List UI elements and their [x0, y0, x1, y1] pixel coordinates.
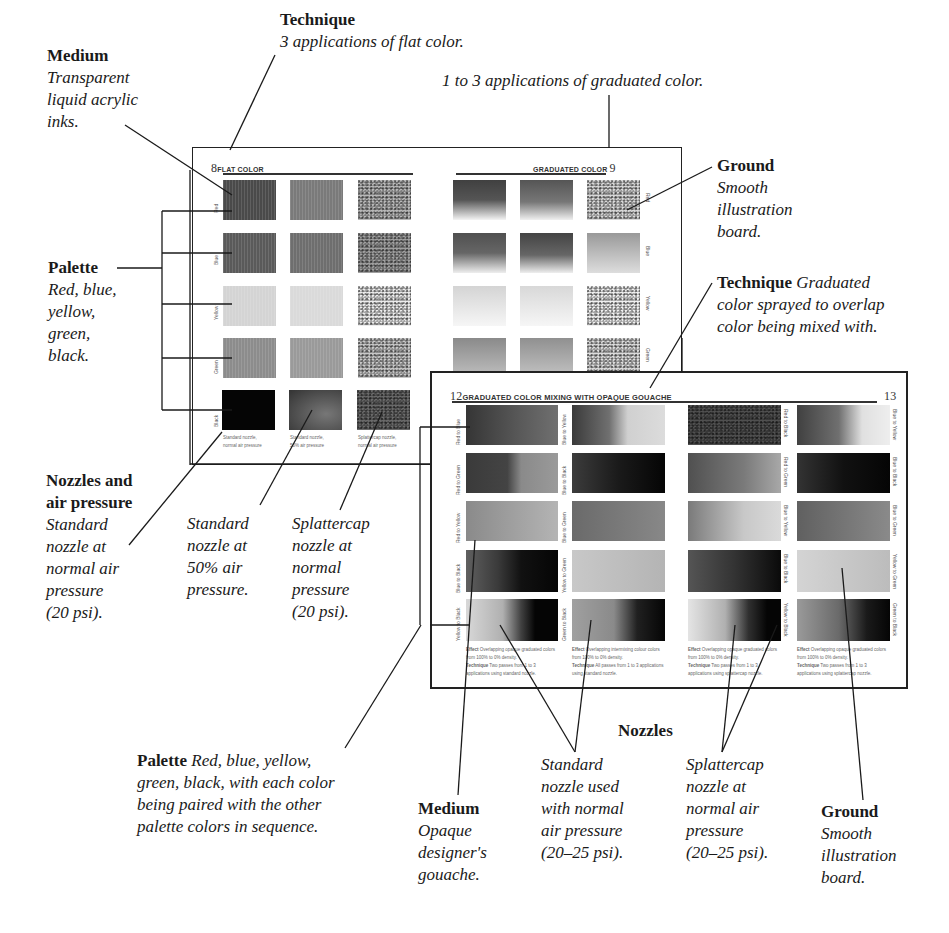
mix-r-yellow-black	[688, 599, 781, 641]
mix-label-l2-1: Blue to Black	[561, 466, 567, 495]
annotation-graduated-note: 1 to 3 applications of graduated color.	[442, 70, 703, 92]
header-rule-bottom	[452, 401, 877, 403]
mix-r-blue-black-2	[797, 453, 890, 493]
mix-r-red-black	[688, 405, 781, 445]
swatch-black-splatter	[357, 390, 410, 430]
swatch-green-splatter	[358, 338, 411, 378]
swatch-blue-splatter	[358, 233, 411, 273]
mix-label-r1-2: Blue to Yellow	[783, 505, 789, 536]
grad-red-2	[520, 180, 573, 220]
mix-blue-black	[466, 550, 558, 592]
mix-label-l2-0: Blue to Yellow	[561, 414, 567, 445]
mix-caption-4: Effect Overlapping opaque graduated colo…	[797, 646, 890, 678]
swatch-yellow-50	[290, 286, 343, 326]
swatch-yellow-standard	[223, 286, 276, 326]
mix-r-blue-green	[797, 501, 890, 541]
mix-label-r2-1: Blue to Black	[892, 457, 898, 486]
annotation-splattercap-bottom: Splattercap nozzle at normal air pressur…	[686, 754, 768, 864]
annotation-splattercap-20: Splattercap nozzle at normal pressure (2…	[292, 513, 370, 623]
mix-r-yellow-green	[797, 550, 890, 592]
mix-r-red-green	[688, 453, 781, 493]
row-label-black: Black	[213, 415, 219, 427]
mix-blue-yellow	[572, 405, 665, 445]
mix-green-black	[572, 599, 665, 641]
mix-label-l2-2: Blue to Green	[561, 512, 567, 543]
swatch-blue-50	[290, 233, 343, 273]
mix-label-r1-1: Red to Green	[783, 457, 789, 487]
annotation-standard-50: Standard nozzle at 50% air pressure.	[187, 513, 249, 601]
mix-label-l1-3: Blue to Black	[455, 564, 461, 593]
row-label-yellow: Yellow	[213, 306, 219, 320]
swatch-red-50	[290, 180, 343, 220]
mix-yellow-black	[466, 599, 558, 641]
swatch-blue-standard	[223, 233, 276, 273]
annotation-palette-left: Palette Red, blue, yellow, green, black.	[48, 257, 116, 367]
swatch-green-50	[290, 338, 343, 378]
mix-label-l1-2: Red to Yellow	[455, 513, 461, 543]
annotation-palette-bottom: Palette Red, blue, yellow, green, black,…	[137, 750, 335, 838]
grad-red-1	[453, 180, 506, 220]
row-label-green: Green	[213, 360, 219, 374]
swatch-black-standard	[222, 390, 275, 430]
mix-caption-2: Effect Overlapping intermixing colour co…	[572, 646, 665, 678]
grad-red-3	[587, 180, 640, 220]
swatch-black-50	[289, 390, 342, 430]
annotation-ground-bottom: Ground Smooth illustration board.	[821, 801, 897, 889]
mix-label-r2-4: Green to Black	[892, 603, 898, 636]
page-number-9: 9	[610, 161, 616, 175]
grad-row-label-green: Green	[645, 348, 651, 362]
mix-label-r2-3: Yellow to Green	[892, 554, 898, 589]
annotation-technique-right: Technique Graduated color sprayed to ove…	[717, 272, 885, 338]
swatch-red-splatter	[358, 180, 411, 220]
mix-label-r1-0: Red to Black	[783, 409, 789, 437]
mix-red-green	[466, 453, 558, 493]
mix-label-r2-0: Blue to Yellow	[892, 409, 898, 440]
mix-r-blue-black	[688, 550, 781, 592]
grad-yellow-3	[587, 286, 640, 326]
annotation-nozzles-air-pressure: Nozzles and air pressure Standard nozzle…	[46, 470, 132, 624]
grad-row-label-red: Red	[645, 193, 651, 202]
annotation-ground-top: Ground Smooth illustration board.	[717, 155, 793, 243]
grad-row-label-blue: Blue	[645, 246, 651, 256]
mix-label-l1-0: Red to Blue	[455, 419, 461, 445]
row-label-blue: Blue	[213, 255, 219, 265]
mix-red-blue	[466, 405, 558, 445]
annotation-medium-top: Medium Transparent liquid acrylic inks.	[47, 45, 138, 133]
grad-row-label-yellow: Yellow	[645, 296, 651, 310]
caption-splattercap: Splattercap nozzle, normal air pressure	[358, 434, 397, 450]
page-number-13-wrap: 13	[884, 389, 896, 404]
grad-blue-3	[587, 233, 640, 273]
mix-label-l1-1: Red to Green	[455, 465, 461, 495]
mix-label-r1-3: Blue to Black	[783, 554, 789, 583]
grad-yellow-2	[520, 286, 573, 326]
mix-caption-3: Effect Overlapping opaque graduated colo…	[688, 646, 781, 678]
annotation-standard-bottom: Standard nozzle used with normal air pre…	[541, 754, 624, 864]
grad-blue-1	[453, 233, 506, 273]
annotation-medium-bottom: Medium Opaque designer's gouache.	[418, 798, 487, 886]
mix-blue-black-2	[572, 453, 665, 493]
caption-standard-normal: Standard nozzle, normal air pressure	[223, 434, 262, 450]
grad-blue-2	[520, 233, 573, 273]
mix-r-green-black	[797, 599, 890, 641]
swatch-red-standard	[223, 180, 276, 220]
mix-label-r2-2: Blue to Green	[892, 505, 898, 536]
mix-blue-green	[572, 501, 665, 541]
swatch-yellow-splatter	[358, 286, 411, 326]
spread-graduated-mixing: 12GRADUATED COLOR MIXING WITH OPAQUE GOU…	[430, 371, 908, 689]
swatch-green-standard	[223, 338, 276, 378]
grad-yellow-1	[453, 286, 506, 326]
mix-yellow-green	[572, 550, 665, 592]
mix-r-blue-yellow-2	[797, 405, 890, 445]
header-rule-left	[223, 173, 413, 175]
row-label-red: Red	[213, 204, 219, 213]
caption-standard-50: Standard nozzle, 50% air pressure	[290, 434, 324, 450]
mix-label-l2-3: Yellow to Green	[561, 558, 567, 593]
heading: Medium	[47, 45, 138, 67]
page-header-graduated-color: GRADUATED COLOR 9	[533, 161, 616, 176]
mix-label-l1-4: Yellow to Black	[455, 608, 461, 641]
mix-label-l2-4: Green to Black	[561, 608, 567, 641]
mix-red-yellow	[466, 501, 558, 541]
mix-label-r1-4: Yellow to Black	[783, 603, 789, 636]
mix-caption-1: Effect Overlapping opaque graduated colo…	[466, 646, 558, 678]
mix-r-blue-yellow	[688, 501, 781, 541]
